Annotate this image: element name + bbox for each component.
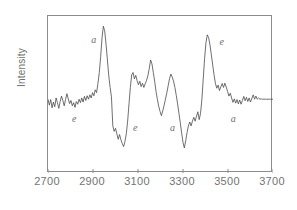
spectrum-curve-canvas [48,16,273,173]
spectrum-trace [48,26,273,148]
x-axis-tick-marks [48,169,273,173]
peak-annotation-a: a [170,123,175,133]
plot-frame [47,15,272,172]
peak-annotation-e: e [72,114,76,124]
peak-annotation-e: e [133,123,137,133]
x-axis-tick-label: 3500 [204,175,250,187]
spectrum-figure: Intensity 270029003100330035003700 aeeae… [0,0,297,210]
peak-annotation-a: a [91,35,96,45]
peak-annotation-e: e [220,37,224,47]
x-axis-tick-label: 2900 [69,175,115,187]
x-axis-tick-label: 3700 [249,175,295,187]
peak-annotation-a: a [231,114,236,124]
x-axis-tick-labels: 270029003100330035003700 [47,175,272,195]
y-axis-title: Intensity [16,8,27,128]
x-axis-tick-label: 3300 [159,175,205,187]
x-axis-tick-label: 3100 [114,175,160,187]
x-axis-tick-label: 2700 [24,175,70,187]
